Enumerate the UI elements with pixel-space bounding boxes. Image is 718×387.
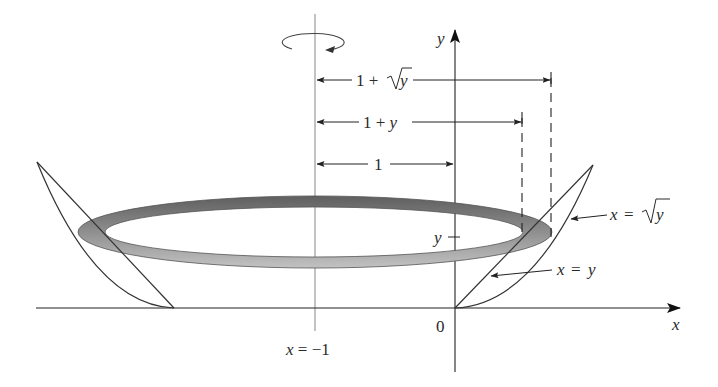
svg-text:y: y — [432, 228, 442, 247]
height-tick: y — [432, 228, 460, 247]
right-region — [455, 165, 593, 308]
svg-text:y: y — [654, 205, 664, 224]
svg-text:=: = — [571, 260, 581, 279]
line-x-equals-y — [455, 165, 593, 308]
outer-radius-label: 1 + — [356, 71, 378, 90]
svg-text:x: x — [556, 260, 565, 279]
line-label: x = y — [491, 260, 596, 279]
y-axis-label: y — [435, 29, 445, 48]
axis-offset-label: 1 — [374, 155, 383, 174]
inner-radius-label: 1 + y — [363, 113, 398, 132]
svg-text:y: y — [398, 71, 408, 90]
axis-of-rotation-label: x = −1 — [285, 340, 330, 359]
left-region — [37, 162, 174, 308]
origin-label: 0 — [436, 317, 445, 336]
rotation-arrow-icon — [282, 33, 344, 53]
svg-text:y: y — [586, 260, 596, 279]
x-axis-label: x — [671, 315, 680, 334]
washer-diagram: 1 + y 1 + y 1 y x 0 y x = −1 x = y x = y — [0, 0, 718, 387]
sqrt-curve-label: x = y — [571, 199, 670, 224]
outer-radius-sqrt: y — [387, 68, 412, 90]
svg-text:=: = — [624, 205, 634, 224]
mirror-line — [37, 162, 174, 308]
svg-text:x: x — [609, 205, 618, 224]
